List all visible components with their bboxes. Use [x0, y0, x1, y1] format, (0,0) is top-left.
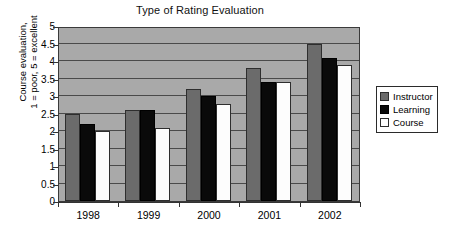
y-tick-label: 4 — [15, 57, 55, 67]
x-tick-mark — [360, 202, 361, 207]
legend-item-learning[interactable]: Learning — [380, 103, 433, 116]
bar-course-2002 — [337, 65, 352, 202]
legend-swatch-icon — [380, 118, 389, 127]
x-tick-label: 2001 — [239, 209, 299, 221]
plot-area — [58, 27, 360, 202]
chart-legend: InstructorLearningCourse — [376, 86, 438, 133]
bar-group-2000 — [186, 28, 240, 201]
bar-instructor-1999 — [125, 110, 140, 201]
y-tick-label: 4.5 — [15, 40, 55, 50]
bar-course-1998 — [95, 131, 110, 201]
legend-swatch-icon — [380, 105, 389, 114]
x-tick-mark — [58, 202, 59, 207]
y-tick-label: 1 — [15, 162, 55, 172]
bar-course-1999 — [155, 128, 170, 202]
y-tick-label: 0.5 — [15, 180, 55, 190]
x-axis-line — [58, 202, 360, 203]
bar-instructor-2001 — [246, 68, 261, 201]
bar-learning-1998 — [80, 124, 95, 201]
bar-learning-2002 — [322, 58, 337, 202]
x-tick-label: 1999 — [119, 209, 179, 221]
x-tick-label: 1998 — [58, 209, 118, 221]
bar-group-1999 — [125, 28, 179, 201]
bar-group-2001 — [246, 28, 300, 201]
y-tick-label: 3.5 — [15, 75, 55, 85]
x-tick-mark — [239, 202, 240, 207]
y-tick-label: 2.5 — [15, 110, 55, 120]
bar-instructor-2000 — [186, 89, 201, 201]
legend-swatch-icon — [380, 92, 389, 101]
bar-learning-2001 — [261, 82, 276, 201]
y-tick-label: 0 — [15, 197, 55, 207]
x-tick-mark — [300, 202, 301, 207]
bar-course-2001 — [276, 82, 291, 201]
bar-group-1998 — [65, 28, 119, 201]
bar-instructor-2002 — [307, 44, 322, 202]
bar-chart: Type of Rating Evaluation Course evaluat… — [0, 0, 451, 234]
legend-item-instructor[interactable]: Instructor — [380, 90, 433, 103]
legend-label: Instructor — [393, 91, 433, 102]
x-tick-label: 2002 — [300, 209, 360, 221]
y-tick-label: 2 — [15, 127, 55, 137]
y-tick-label: 1.5 — [15, 145, 55, 155]
bar-learning-1999 — [140, 110, 155, 201]
x-tick-mark — [118, 202, 119, 207]
legend-item-course[interactable]: Course — [380, 116, 433, 129]
bar-group-2002 — [307, 28, 361, 201]
legend-label: Learning — [393, 104, 430, 115]
y-tick-label: 5 — [15, 22, 55, 32]
x-tick-mark — [179, 202, 180, 207]
x-tick-label: 2000 — [179, 209, 239, 221]
bar-learning-2000 — [201, 96, 216, 201]
y-tick-label: 3 — [15, 92, 55, 102]
bar-course-2000 — [216, 104, 231, 201]
legend-label: Course — [393, 117, 424, 128]
bar-instructor-1998 — [65, 114, 80, 202]
chart-title: Type of Rating Evaluation — [0, 4, 400, 16]
